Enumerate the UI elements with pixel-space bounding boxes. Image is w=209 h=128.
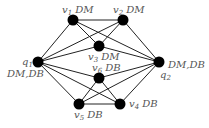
label-q2: q2 xyxy=(160,69,171,82)
node-v4 xyxy=(115,99,126,110)
network-graph: v1 DMv2 DMv3 DMq1q2v6 DBv5 DBv4 DBDM,DBD… xyxy=(0,0,209,128)
label-v5: v5 DB xyxy=(74,109,103,122)
node-v5 xyxy=(74,99,85,110)
edge-v1-v3 xyxy=(73,20,99,46)
node-q2 xyxy=(154,57,165,68)
node-v3 xyxy=(94,41,105,52)
label-v1: v1 DM xyxy=(62,4,94,17)
label-v4: v4 DB xyxy=(129,98,158,111)
edge-q1-v5 xyxy=(38,62,79,104)
role-label-1: DM,DB xyxy=(167,59,205,70)
role-label-0: DM,DB xyxy=(6,68,44,79)
edge-q1-v6 xyxy=(38,62,99,78)
edge-q1-v1 xyxy=(38,20,73,62)
edge-q2-v2 xyxy=(123,20,159,62)
label-v2: v2 DM xyxy=(113,4,145,17)
node-q1 xyxy=(33,57,44,68)
